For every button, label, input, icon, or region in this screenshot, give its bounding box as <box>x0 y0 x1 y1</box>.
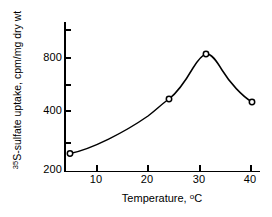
data-point-marker <box>249 99 254 104</box>
chart-figure: 35S-sulfate uptake, cpm/mg dry wt 800 40… <box>0 0 272 217</box>
data-curve <box>70 54 252 154</box>
data-plot <box>0 0 272 217</box>
data-point-marker <box>67 151 72 156</box>
data-point-marker <box>166 96 171 101</box>
data-point-marker <box>203 51 208 56</box>
